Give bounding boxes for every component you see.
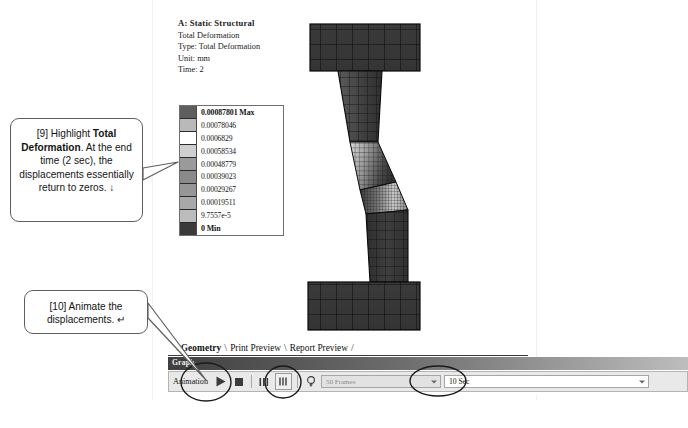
legend-swatch-0 — [180, 106, 196, 119]
mesh-bottom-flange — [308, 282, 420, 330]
tab-report-preview[interactable]: Report Preview — [288, 343, 350, 353]
legend-label-1: 0.00078046 — [201, 119, 283, 132]
tab-end-separator: / — [350, 342, 355, 353]
callout-9-prefix: [9] Highlight — [37, 128, 93, 139]
animation-toolbar[interactable]: Animation — [168, 371, 688, 392]
tab-geometry[interactable]: Geometry — [179, 343, 224, 353]
legend-swatch-9 — [180, 223, 196, 235]
legend-swatch-7 — [180, 197, 196, 210]
legend-swatch-5 — [180, 171, 196, 184]
toolbar-separator — [251, 375, 252, 388]
single-frame-button[interactable] — [275, 373, 292, 390]
callout-10-text: [10] Animate the displacements. — [47, 301, 123, 325]
legend-label-7: 0.00019511 — [201, 196, 283, 209]
mesh-upper-arm — [334, 69, 390, 147]
duration-value: 10 Sec — [449, 377, 469, 386]
chevron-down-icon-2 — [639, 380, 645, 383]
legend-label-2: 0.0006829 — [201, 132, 283, 145]
legend-swatch-1 — [180, 119, 196, 132]
mesh-lower-arm — [362, 208, 414, 286]
bulb-button[interactable] — [303, 374, 318, 389]
legend-swatch-8 — [180, 210, 196, 223]
animation-label: Animation — [173, 377, 210, 386]
legend-label-3: 0.00058534 — [201, 145, 283, 158]
play-icon — [214, 375, 227, 388]
toolbar-separator-2 — [297, 375, 298, 388]
duration-select[interactable]: 10 Sec — [444, 375, 649, 388]
finite-element-mesh-view[interactable] — [304, 14, 434, 336]
legend-swatch-4 — [180, 158, 196, 171]
single-column-icon — [278, 376, 289, 387]
legend-label-5: 0.00039023 — [201, 171, 283, 184]
legend-label-9: 0 Min — [201, 222, 283, 235]
distribute-frames-button[interactable] — [257, 374, 272, 389]
graph-title: Graph — [172, 358, 195, 367]
ansys-result-screenshot: A: Static Structural Total Deformation T… — [152, 0, 537, 400]
mesh-top-flange — [310, 24, 420, 71]
callout-9: [9] Highlight Total Deformation. At the … — [10, 118, 143, 222]
play-button[interactable] — [213, 374, 228, 389]
mesh-svg — [304, 14, 434, 336]
chevron-down-icon — [431, 380, 437, 383]
legend-swatch-2 — [180, 132, 196, 145]
enter-arrow-icon: ↵ — [117, 314, 125, 325]
legend-label-0: 0.00087801 Max — [201, 106, 283, 119]
stop-icon — [233, 376, 245, 388]
contour-legend[interactable]: 0.00087801 Max0.000780460.00068290.00058… — [179, 105, 284, 236]
lightbulb-icon — [305, 375, 317, 388]
callout-10: [10] Animate the displacements. ↵ — [24, 290, 148, 334]
stop-button[interactable] — [231, 374, 246, 389]
tab-print-preview[interactable]: Print Preview — [228, 343, 283, 353]
legend-label-6: 0.00029267 — [201, 183, 283, 196]
graph-panel: Graph Animation — [168, 357, 688, 395]
legend-label-8: 9.7557e-5 — [201, 209, 283, 222]
graph-titlebar: Graph — [168, 357, 688, 370]
legend-color-bar — [180, 106, 197, 235]
legend-value-labels: 0.00087801 Max0.000780460.00068290.00058… — [197, 106, 283, 235]
frames-select[interactable]: 50 Frames — [321, 375, 441, 388]
tabstrip-rule — [168, 355, 528, 356]
tab-list[interactable]: \Geometry\Print Preview\Report Preview/ — [174, 340, 355, 355]
view-tabstrip[interactable]: \Geometry\Print Preview\Report Preview/ — [168, 340, 528, 356]
legend-swatch-3 — [180, 145, 196, 158]
down-arrow-icon: ↓ — [109, 182, 114, 193]
frames-value: 50 Frames — [326, 378, 355, 386]
legend-swatch-6 — [180, 184, 196, 197]
frames-columns-icon — [258, 376, 271, 388]
legend-label-4: 0.00048779 — [201, 158, 283, 171]
